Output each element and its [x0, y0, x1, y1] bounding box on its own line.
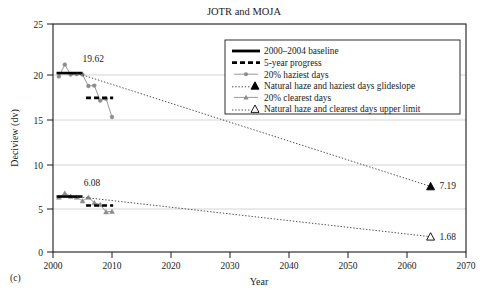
- x-tick-2030: 2030: [221, 261, 240, 271]
- legend-label: 2000–2004 baseline: [264, 46, 339, 56]
- legend-label: 20% clearest days: [264, 93, 331, 103]
- y-tick-15: 15: [34, 116, 44, 126]
- legend-label: Natural haze and clearest days upper lim…: [264, 104, 421, 114]
- x-tick-2020: 2020: [162, 261, 181, 271]
- x-tick-2070: 2070: [457, 261, 476, 271]
- data-point: [57, 75, 61, 79]
- y-tick-5: 5: [38, 205, 43, 215]
- series-0: [57, 63, 114, 119]
- chart-svg: JOTR and MOJA (c) 25 20 15 10 5 0: [0, 0, 489, 296]
- x-tick-2050: 2050: [339, 261, 358, 271]
- x-axis-ticks: [53, 252, 466, 258]
- y-axis-title: Deciview (dv): [9, 109, 21, 166]
- data-point: [92, 84, 96, 88]
- data-point: [87, 84, 91, 88]
- panel-label: (c): [10, 273, 21, 284]
- legend: 2000–2004 baseline5-year progress20% haz…: [225, 40, 460, 114]
- series-1: [57, 191, 115, 214]
- data-point: [62, 191, 67, 195]
- series-3: [86, 98, 113, 206]
- figure-panel: JOTR and MOJA (c) 25 20 15 10 5 0: [0, 0, 489, 296]
- x-tick-2010: 2010: [103, 261, 122, 271]
- projection-line: [77, 197, 431, 237]
- haziest-endpoint-value: 7.19: [439, 181, 456, 191]
- y-tick-0: 0: [38, 248, 43, 258]
- legend-box: [225, 40, 460, 114]
- x-tick-2060: 2060: [398, 261, 417, 271]
- endpoint-filled-triangle: [427, 182, 435, 189]
- x-tick-2000: 2000: [44, 261, 63, 271]
- y-tick-20: 20: [34, 71, 44, 81]
- data-point: [86, 195, 91, 199]
- haziest-baseline-value: 19.62: [83, 54, 105, 64]
- series-2: [57, 73, 83, 196]
- chart-title: JOTR and MOJA: [207, 6, 282, 17]
- y-tick-25: 25: [34, 20, 44, 30]
- legend-swatch-circle: [244, 72, 248, 76]
- endpoint-open-triangle: [427, 233, 435, 240]
- legend-label: 5-year progress: [264, 58, 322, 68]
- data-point: [63, 63, 67, 67]
- data-point: [98, 99, 102, 103]
- x-axis-tick-labels: 2000 2010 2020 2030 2040 2050 2060 2070: [44, 261, 476, 271]
- x-axis-title: Year: [250, 276, 269, 287]
- y-axis-ticks: [47, 24, 53, 252]
- data-point: [110, 115, 114, 119]
- data-point: [80, 199, 85, 203]
- y-axis-tick-labels: 25 20 15 10 5 0: [34, 20, 44, 258]
- legend-label: 20% haziest days: [264, 70, 329, 80]
- x-tick-2040: 2040: [280, 261, 299, 271]
- clearest-baseline-value: 6.08: [84, 178, 101, 188]
- y-tick-10: 10: [34, 161, 44, 171]
- clearest-endpoint-value: 1.68: [439, 232, 456, 242]
- series-5: [77, 197, 435, 241]
- legend-label: Natural haze and haziest days glideslope: [264, 81, 415, 91]
